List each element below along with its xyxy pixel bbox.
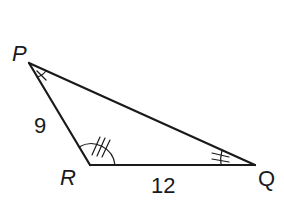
side-label-pr: 9 [34,113,46,138]
vertex-label-r: R [60,165,76,190]
vertex-label-p: P [12,41,27,66]
angle-mark-r [79,137,115,165]
side-label-rq: 12 [151,173,175,198]
side-pq [29,63,255,165]
vertex-label-q: Q [258,166,275,191]
triangle-diagram: P R Q 9 12 [0,0,284,222]
